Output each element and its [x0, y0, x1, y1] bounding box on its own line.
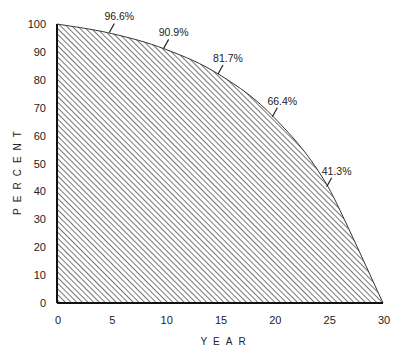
x-tick-label: 30	[378, 314, 390, 326]
y-tick-labels: 0102030405060708090100	[28, 18, 46, 309]
y-tick-label: 10	[34, 269, 46, 281]
y-tick-label: 50	[34, 158, 46, 170]
annotation-leader-line	[272, 108, 277, 117]
annotation-leader-line	[218, 65, 223, 74]
y-tick-label: 90	[34, 46, 46, 58]
y-tick-label: 100	[28, 18, 46, 30]
plot-area	[57, 24, 383, 303]
annotation-leader-line	[327, 178, 332, 187]
annotation-label: 90.9%	[159, 26, 189, 38]
x-tick-label: 0	[55, 314, 61, 326]
annotation-label: 41.3%	[322, 165, 352, 177]
annotation-leader-line	[164, 39, 169, 48]
annotation-label: 96.6%	[104, 10, 134, 22]
y-tick-label: 40	[34, 185, 46, 197]
x-tick-label: 20	[269, 314, 281, 326]
y-tick-label: 60	[34, 130, 46, 142]
y-tick-label: 20	[34, 241, 46, 253]
annotation-label: 81.7%	[213, 52, 243, 64]
x-tick-label: 25	[324, 314, 336, 326]
x-tick-label: 5	[109, 314, 115, 326]
x-tick-labels: 051015202530	[55, 314, 390, 326]
x-axis-title: YEAR	[200, 336, 251, 347]
y-axis-title: PERCENT	[12, 125, 23, 215]
x-tick-label: 15	[215, 314, 227, 326]
y-tick-label: 80	[34, 74, 46, 86]
annotation-label: 66.4%	[267, 95, 297, 107]
area-chart: 0102030405060708090100 051015202530 96.6…	[0, 0, 404, 355]
annotation-leader-line	[109, 23, 114, 32]
y-tick-label: 30	[34, 213, 46, 225]
x-tick-label: 10	[161, 314, 173, 326]
y-tick-label: 0	[40, 297, 46, 309]
y-tick-label: 70	[34, 102, 46, 114]
hatched-area	[57, 24, 383, 303]
